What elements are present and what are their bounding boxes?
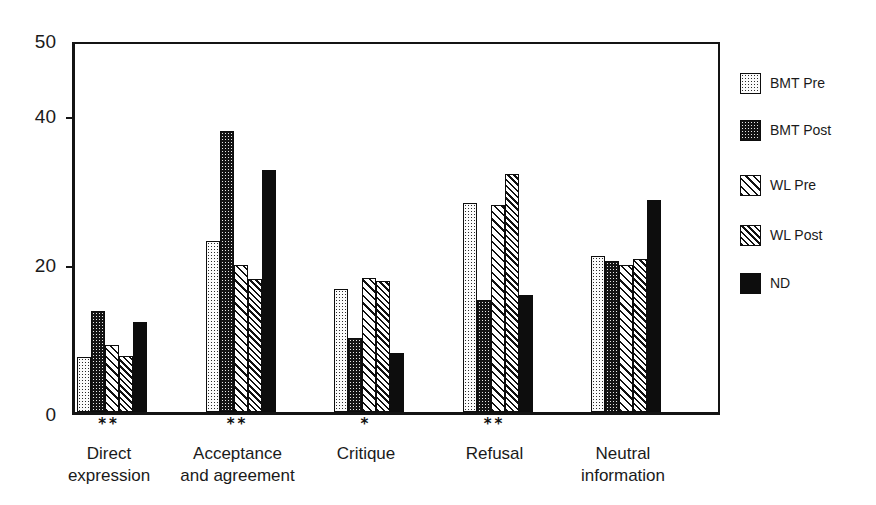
x-axis-category-label: Directexpression — [34, 443, 184, 487]
bar — [77, 357, 91, 412]
legend-swatch-icon — [740, 73, 761, 94]
significance-asterisk: ** — [477, 419, 513, 429]
y-axis-tick-label: 20 — [8, 256, 56, 275]
legend-swatch-icon — [740, 273, 761, 294]
legend-swatch-icon — [740, 120, 761, 141]
x-axis-category-label-line: Critique — [291, 443, 441, 465]
bar — [463, 203, 477, 412]
y-axis-tick-label: 0 — [8, 405, 56, 424]
bar — [220, 131, 234, 412]
bar — [477, 300, 491, 412]
bar — [491, 205, 505, 412]
bar — [119, 356, 133, 412]
x-axis-category-label-line: Neutral — [548, 443, 698, 465]
bar — [91, 311, 105, 412]
bar — [519, 295, 533, 412]
legend-label: BMT Pre — [770, 75, 825, 92]
legend-swatch-icon — [740, 175, 761, 196]
bar — [376, 281, 390, 412]
bar-chart-figure: 0204050 ******* DirectexpressionAcceptan… — [0, 0, 876, 505]
bar — [348, 338, 362, 412]
bar — [605, 261, 619, 412]
legend-label: WL Post — [770, 227, 822, 244]
bar — [619, 265, 633, 412]
x-axis-category-label: Refusal — [420, 443, 570, 465]
bar — [390, 353, 404, 412]
y-axis-tick-label: 40 — [8, 107, 56, 126]
significance-asterisk: * — [348, 419, 384, 429]
legend-label: BMT Post — [770, 122, 831, 139]
legend-swatch-icon — [740, 225, 761, 246]
y-axis-tick-label: 50 — [8, 32, 56, 51]
bar — [633, 259, 647, 412]
x-axis-category-label-line: Direct — [34, 443, 184, 465]
legend-label: ND — [770, 275, 790, 292]
significance-asterisk: ** — [91, 419, 127, 429]
x-axis-category-label-line: Refusal — [420, 443, 570, 465]
x-axis-category-label: Critique — [291, 443, 441, 465]
bar — [505, 174, 519, 412]
bar — [133, 322, 147, 412]
significance-asterisk: ** — [220, 419, 256, 429]
x-axis-category-label: Acceptanceand agreement — [163, 443, 313, 487]
bar — [206, 241, 220, 412]
x-axis-category-label-line: expression — [34, 465, 184, 487]
x-axis-category-label: Neutralinformation — [548, 443, 698, 487]
x-axis-category-label-line: Acceptance — [163, 443, 313, 465]
legend-label: WL Pre — [770, 177, 816, 194]
x-axis-category-label-line: and agreement — [163, 465, 313, 487]
bar — [105, 345, 119, 412]
bar — [591, 256, 605, 412]
bar — [362, 278, 376, 412]
bar — [334, 289, 348, 412]
bar — [248, 279, 262, 412]
bar — [647, 200, 661, 412]
x-axis-category-label-line: information — [548, 465, 698, 487]
plot-area — [72, 42, 720, 415]
bar — [234, 265, 248, 412]
bar — [262, 170, 276, 412]
